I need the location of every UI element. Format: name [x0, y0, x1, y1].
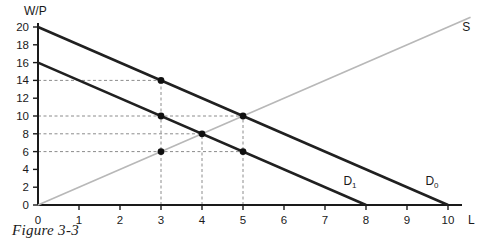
x-tick-label-10: 10: [442, 214, 455, 226]
x-axis-title: L: [468, 213, 475, 227]
curve-label-s: S: [462, 20, 470, 34]
supply-demand-chart: 02468101214161820012345678910 W/PL D0D1S: [0, 0, 489, 245]
y-tick-label-10: 10: [16, 110, 29, 122]
point-5-10: [240, 113, 247, 120]
curve-label-subscript: 1: [352, 181, 357, 190]
x-tick-label-4: 4: [199, 214, 206, 226]
y-tick-label-8: 8: [23, 128, 29, 140]
point-3-10: [158, 113, 165, 120]
y-tick-label-16: 16: [16, 57, 29, 69]
point-5-6: [240, 148, 247, 155]
curve-label-subscript: 0: [434, 181, 439, 190]
y-tick-label-20: 20: [16, 21, 29, 33]
y-tick-label-0: 0: [23, 199, 29, 211]
y-tick-label-2: 2: [23, 181, 29, 193]
curve-label-d0: D0: [425, 174, 439, 190]
figure-caption: Figure 3-3: [12, 222, 79, 239]
y-tick-label-14: 14: [16, 74, 29, 86]
x-tick-label-5: 5: [240, 214, 246, 226]
curve-s: [38, 17, 471, 205]
y-tick-label-12: 12: [16, 92, 29, 104]
figure-container: 02468101214161820012345678910 W/PL D0D1S…: [0, 0, 489, 245]
guide-lines-group: [38, 80, 243, 205]
y-tick-label-4: 4: [23, 163, 30, 175]
x-tick-label-2: 2: [117, 214, 123, 226]
point-4-8: [199, 130, 206, 137]
x-tick-label-7: 7: [322, 214, 328, 226]
curve-label-d1: D1: [343, 174, 357, 190]
x-tick-label-8: 8: [363, 214, 369, 226]
axis-titles-group: W/PL: [24, 4, 475, 227]
y-axis-title: W/P: [24, 4, 47, 18]
y-tick-label-18: 18: [16, 39, 29, 51]
x-tick-label-6: 6: [281, 214, 287, 226]
y-tick-label-6: 6: [23, 146, 29, 158]
tick-labels-group: 02468101214161820012345678910: [16, 21, 454, 226]
x-tick-label-9: 9: [404, 214, 410, 226]
curves-group: [38, 17, 471, 205]
x-tick-label-3: 3: [158, 214, 164, 226]
point-3-14: [158, 77, 165, 84]
point-3-6: [158, 148, 165, 155]
